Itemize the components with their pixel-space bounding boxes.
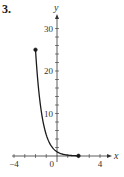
- endpoint-dot: [77, 154, 81, 158]
- x-tick-label: 4: [98, 159, 103, 169]
- x-axis-label: x: [113, 150, 119, 161]
- x-tick-label: 0: [50, 159, 55, 169]
- y-axis-arrow: [55, 14, 59, 19]
- y-axis-label: y: [53, 2, 59, 13]
- y-tick-label: 20: [44, 66, 54, 76]
- y-tick-label: 10: [44, 109, 54, 119]
- endpoint-dot: [34, 48, 38, 52]
- x-axis-arrow: [107, 154, 112, 158]
- x-tick-label: −4: [9, 159, 19, 169]
- axes: xy: [12, 2, 119, 162]
- y-tick-label: 30: [44, 24, 54, 34]
- chart: xy −404102030: [0, 0, 124, 177]
